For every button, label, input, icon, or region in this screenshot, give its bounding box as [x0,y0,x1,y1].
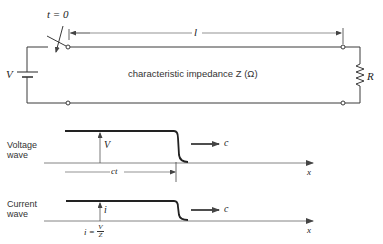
current-waveform [66,201,188,220]
current-relation-fraction: V Z [97,224,103,239]
top-right-terminal [341,45,345,49]
switch-blade [47,36,66,46]
voltage-velocity-label: c [224,138,228,148]
voltage-axis-label: x [307,167,311,177]
ct-label: ct [111,166,118,176]
switch-arrow [56,26,63,52]
line-impedance-label: characteristic impedance Z (Ω) [128,69,258,79]
voltage-amplitude-label: V [104,140,110,150]
bottom-right-terminal [341,101,345,105]
source-voltage-label: V [6,69,13,79]
voltage-wave-plot [44,131,313,182]
current-relation-denominator: Z [97,232,103,239]
current-wave-title-line2: wave [7,209,37,219]
current-wave-title-line1: Current [7,199,37,209]
switch-terminal [66,45,70,49]
current-velocity-label: c [224,204,228,214]
circuit [17,26,364,105]
length-label: l [194,27,197,37]
voltage-wave-title: Voltage wave [7,140,37,160]
current-amplitude-label: i [104,205,107,215]
load-resistance-label: R [367,71,374,81]
current-wave-title: Current wave [7,199,37,219]
current-relation-lhs: i = [84,227,95,237]
current-wave-plot [44,201,313,221]
switch-time-label: t = 0 [47,9,68,19]
load-resistor [345,47,364,103]
voltage-wave-title-line2: wave [7,150,37,160]
current-relation: i = V Z [84,224,104,239]
voltage-wave-title-line1: Voltage [7,140,37,150]
voltage-waveform [65,131,188,162]
bottom-left-terminal [66,101,70,105]
current-axis-label: x [307,225,311,235]
diagram-canvas [0,0,383,244]
